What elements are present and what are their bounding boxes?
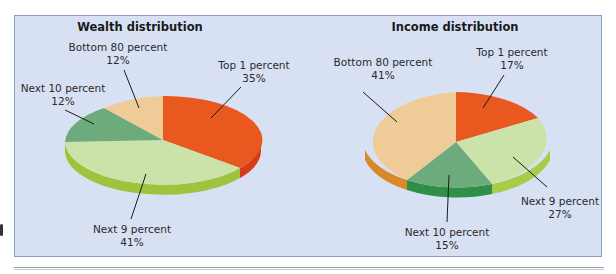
wealth-label-next10-value: 12% — [51, 95, 74, 107]
wealth-label-bottom80-name: Bottom 80 percent — [69, 41, 168, 53]
wealth-label-next9-value: 41% — [120, 236, 143, 248]
wealth-pie — [65, 96, 262, 195]
wealth-title: Wealth distribution — [77, 20, 203, 34]
wealth-label-bottom80-value: 12% — [106, 54, 129, 66]
income-label-top1-value: 17% — [500, 59, 523, 71]
income-label-top1-name: Top 1 percent — [475, 46, 547, 58]
income-label-bottom80-value: 41% — [371, 69, 394, 81]
income-label-bottom80-name: Bottom 80 percent — [334, 56, 433, 68]
income-label-next10-name: Next 10 percent — [405, 226, 490, 238]
income-label-next9-name: Next 9 percent — [521, 195, 599, 207]
wealth-label-next9-name: Next 9 percent — [93, 223, 171, 235]
wealth-label-next10-name: Next 10 percent — [21, 82, 106, 94]
income-pie — [365, 92, 550, 198]
income-label-next9-value: 27% — [548, 208, 571, 220]
wealth-label-top1-name: Top 1 percent — [217, 59, 289, 71]
income-label-next10-value: 15% — [435, 239, 458, 251]
charts-svg: Wealth distribution Bottom 80 percent 12… — [0, 0, 616, 274]
income-leader-bottom80 — [363, 92, 397, 122]
wealth-label-top1-value: 35% — [242, 72, 265, 84]
income-title: Income distribution — [391, 20, 518, 34]
